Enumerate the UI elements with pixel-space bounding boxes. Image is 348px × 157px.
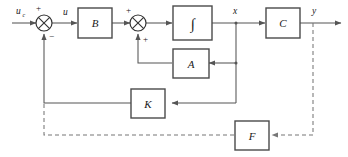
block-b-label: B	[92, 17, 99, 29]
label-output: y	[311, 6, 317, 16]
block-k-label: K	[143, 98, 152, 110]
block-diagram: B ∫ C A K F + − + +	[0, 0, 348, 157]
summing-junction-state[interactable]	[130, 15, 146, 31]
label-state: x	[232, 6, 238, 16]
block-a-label: A	[187, 58, 195, 70]
label-reference-input-subscript: c	[23, 12, 26, 18]
sum2-sign-positive-feedback: +	[143, 34, 148, 44]
sum2-sign-positive-input: +	[126, 5, 131, 15]
block-c-label: C	[279, 17, 287, 29]
state-branch-node	[235, 22, 238, 25]
label-control-input: u	[63, 7, 68, 17]
sum1-sign-negative: −	[49, 31, 54, 41]
sum1-sign-positive: +	[36, 3, 41, 13]
diagram-canvas: B ∫ C A K F + − + +	[0, 0, 348, 157]
a-branch-node	[235, 62, 238, 65]
wire-k-to-sum1	[44, 34, 131, 103]
summing-junction-error[interactable]	[36, 15, 52, 31]
block-f-label: F	[248, 130, 256, 142]
label-reference-input: u	[16, 6, 21, 16]
